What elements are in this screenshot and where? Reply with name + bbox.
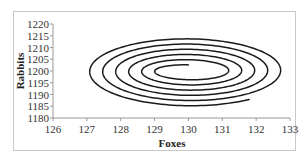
x-tick-label: 132 [248, 123, 265, 135]
y-tick-label: 1220 [27, 18, 50, 30]
x-tick-label: 128 [112, 123, 129, 135]
y-tick-label: 1215 [27, 30, 50, 42]
y-tick-label: 1195 [27, 77, 49, 89]
y-axis: 118011851190119512001205121012151220 [27, 18, 53, 124]
x-axis: 126127128129130131132133 [45, 118, 299, 135]
x-tick-label: 129 [146, 123, 163, 135]
x-tick-label: 130 [180, 123, 197, 135]
phase-plot: 118011851190119512001205121012151220 126… [0, 0, 304, 165]
x-tick-label: 127 [79, 123, 96, 135]
spiral-trajectory-line [90, 39, 281, 106]
x-tick-label: 131 [214, 123, 231, 135]
x-tick-label: 133 [282, 123, 299, 135]
y-tick-label: 1200 [27, 65, 50, 77]
y-tick-label: 1205 [27, 53, 50, 65]
y-tick-label: 1210 [27, 42, 50, 54]
y-tick-label: 1185 [27, 100, 49, 112]
x-tick-label: 126 [45, 123, 62, 135]
x-axis-title: Foxes [159, 137, 187, 149]
y-tick-label: 1190 [27, 89, 49, 101]
y-axis-title: Rabbits [14, 52, 26, 89]
